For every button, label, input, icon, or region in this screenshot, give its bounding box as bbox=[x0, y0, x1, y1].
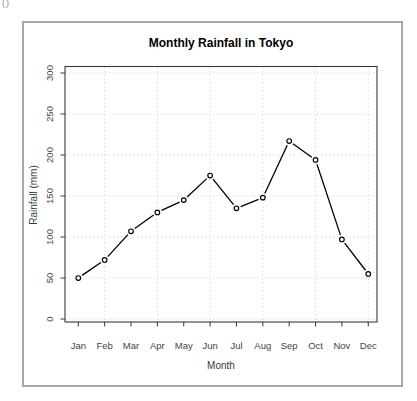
data-point-apr bbox=[155, 210, 160, 215]
data-point-jun bbox=[208, 173, 213, 178]
line-segment-9 bbox=[317, 164, 340, 235]
page-root: () JanFebMarAprMayJunJulAugSepOctNovDec0… bbox=[0, 0, 417, 401]
x-tick-label-aug: Aug bbox=[254, 340, 271, 351]
y-axis-label: Rainfall (mm) bbox=[28, 165, 39, 224]
y-tick-label-0: 0 bbox=[44, 316, 55, 321]
rainfall-line-chart: JanFebMarAprMayJunJulAugSepOctNovDec0501… bbox=[0, 0, 417, 401]
x-tick-label-sep: Sep bbox=[281, 340, 298, 351]
x-tick-label-jan: Jan bbox=[71, 340, 86, 351]
line-segment-0 bbox=[82, 263, 101, 276]
data-point-sep bbox=[287, 139, 292, 144]
line-segment-6 bbox=[241, 199, 259, 206]
data-point-jan bbox=[76, 276, 81, 281]
y-tick-label-200: 200 bbox=[44, 147, 55, 163]
x-tick-label-jun: Jun bbox=[202, 340, 217, 351]
data-point-aug bbox=[261, 195, 266, 200]
x-tick-label-dec: Dec bbox=[360, 340, 377, 351]
line-segment-1 bbox=[108, 235, 128, 257]
line-segment-5 bbox=[213, 179, 234, 205]
x-tick-label-mar: Mar bbox=[123, 340, 139, 351]
line-segment-4 bbox=[187, 179, 207, 197]
data-point-dec bbox=[366, 272, 371, 277]
line-segment-2 bbox=[135, 215, 154, 229]
y-tick-label-150: 150 bbox=[44, 188, 55, 204]
x-axis-label: Month bbox=[65, 360, 377, 371]
x-tick-label-may: May bbox=[175, 340, 193, 351]
x-tick-label-apr: Apr bbox=[150, 340, 165, 351]
data-point-feb bbox=[102, 258, 107, 263]
plot-box bbox=[65, 67, 377, 323]
y-tick-label-100: 100 bbox=[44, 229, 55, 245]
y-tick-label-300: 300 bbox=[44, 65, 55, 81]
chart-title: Monthly Rainfall in Tokyo bbox=[65, 36, 377, 50]
x-tick-label-oct: Oct bbox=[308, 340, 323, 351]
x-tick-label-nov: Nov bbox=[333, 340, 350, 351]
x-tick-label-feb: Feb bbox=[96, 340, 112, 351]
line-segment-3 bbox=[162, 202, 180, 210]
line-segment-10 bbox=[345, 243, 366, 270]
y-tick-label-50: 50 bbox=[44, 273, 55, 284]
data-point-mar bbox=[129, 229, 134, 234]
y-tick-label-250: 250 bbox=[44, 106, 55, 122]
x-tick-label-jul: Jul bbox=[230, 340, 242, 351]
data-point-may bbox=[181, 198, 186, 203]
line-segment-7 bbox=[265, 145, 287, 193]
data-point-oct bbox=[313, 158, 318, 163]
data-point-nov bbox=[340, 237, 345, 242]
data-point-jul bbox=[234, 206, 239, 211]
